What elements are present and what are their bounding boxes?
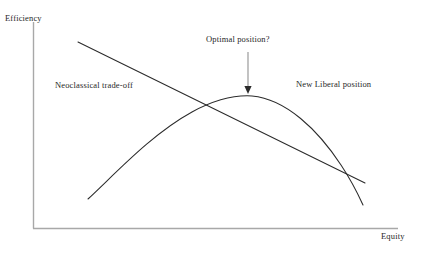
optimal-position-label: Optimal position? bbox=[206, 35, 270, 44]
y-axis-label: Efficiency bbox=[5, 14, 42, 23]
neoclassical-tradeoff-label: Neoclassical trade-off bbox=[55, 81, 133, 90]
new-liberal-position-label: New Liberal position bbox=[296, 80, 371, 89]
neoclassical-tradeoff-line bbox=[78, 42, 365, 183]
new-liberal-curve bbox=[88, 96, 363, 205]
optimal-position-arrow-head bbox=[244, 86, 251, 94]
x-axis-label: Equity bbox=[381, 232, 405, 241]
efficiency-equity-figure: Efficiency Equity Neoclassical trade-off… bbox=[0, 0, 431, 253]
